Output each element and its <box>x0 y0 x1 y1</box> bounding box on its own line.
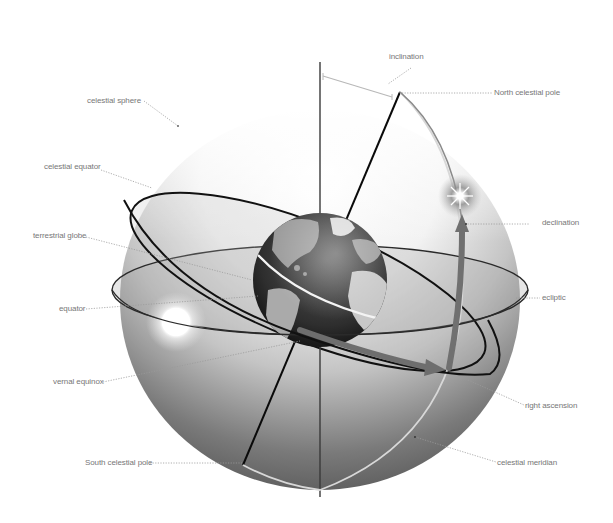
label-south-celestial-pole: South celestial pole <box>85 458 152 468</box>
label-inclination: inclination <box>389 52 423 62</box>
label-celestial-meridian: celestial meridian <box>497 458 557 468</box>
label-declination: declination <box>542 218 579 228</box>
star-icon <box>438 174 482 218</box>
label-terrestrial-globe: terrestrial globe <box>33 231 86 241</box>
label-equator: equator <box>59 304 85 314</box>
celestial-sphere-diagram <box>0 0 613 523</box>
label-celestial-sphere: celestial sphere <box>87 96 141 106</box>
label-ecliptic: ecliptic <box>542 293 566 303</box>
label-vernal-equinox: vernal equinox <box>53 377 104 387</box>
sun-icon <box>146 292 206 352</box>
label-north-celestial-pole: North celestial pole <box>494 88 560 98</box>
label-right-ascension: right ascension <box>525 401 577 411</box>
inclination-indicator <box>323 73 392 100</box>
label-celestial-equator: celestial equator <box>44 162 101 172</box>
